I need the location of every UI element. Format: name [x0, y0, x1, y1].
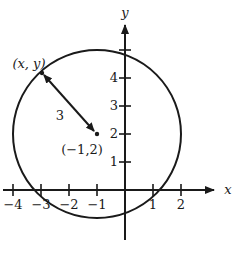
point-label: (x, y): [12, 56, 45, 71]
y-tick-label: 2: [110, 126, 118, 141]
y-axis-label: y: [120, 5, 129, 20]
x-axis: −4 −3 −2 −1 1 2 x: [3, 182, 232, 212]
center-label: (−1,2): [61, 142, 103, 157]
circle-point: [40, 71, 44, 75]
circle-diagram: −4 −3 −2 −1 1 2 x 1 2 3 4 y (x, y) 3 (−1…: [0, 0, 236, 253]
y-axis: 1 2 3 4 y: [110, 5, 131, 240]
x-tick-label: 2: [177, 197, 185, 212]
diagram-canvas: −4 −3 −2 −1 1 2 x 1 2 3 4 y (x, y) 3 (−1…: [0, 0, 236, 253]
y-tick-label: 3: [110, 98, 118, 113]
radius-arrow: [44, 75, 94, 131]
radius-label: 3: [56, 108, 64, 123]
x-tick-label: −1: [87, 197, 106, 212]
x-axis-label: x: [224, 182, 232, 197]
y-tick-label: 4: [110, 70, 118, 85]
x-tick-label: −4: [3, 197, 22, 212]
y-tick-label: 1: [110, 154, 118, 169]
center-point: [95, 132, 99, 136]
x-tick-label: −3: [31, 197, 50, 212]
